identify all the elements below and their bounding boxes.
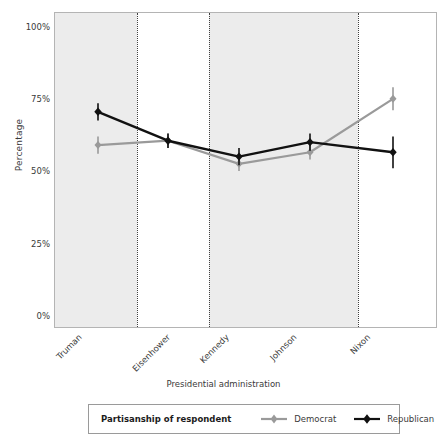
y-tick-label-100: 100% bbox=[6, 22, 50, 32]
plot-area bbox=[54, 12, 437, 328]
series-canvas bbox=[55, 13, 436, 327]
x-axis-title: Presidential administration bbox=[0, 379, 447, 389]
x-axis-tick-labels: Truman Eisenhower Kennedy Johnson Nixon bbox=[0, 328, 447, 380]
y-tick-label-75: 75% bbox=[6, 94, 50, 104]
democrat-marker-icon bbox=[261, 413, 287, 425]
legend-entry-democrat[interactable]: Democrat bbox=[261, 413, 336, 425]
legend-entry-republican[interactable]: Republican bbox=[354, 413, 434, 425]
legend-label-republican: Republican bbox=[387, 414, 434, 424]
x-tick-label-kennedy: Kennedy bbox=[198, 332, 231, 365]
chart-legend: Partisanship of respondent Democrat Repu… bbox=[88, 404, 400, 434]
x-tick-label-johnson: Johnson bbox=[268, 332, 299, 363]
y-tick-label-25: 25% bbox=[6, 239, 50, 249]
republican-marker-icon bbox=[354, 413, 380, 425]
series-republican bbox=[94, 103, 396, 168]
y-tick-label-50: 50% bbox=[6, 166, 50, 176]
y-tick-label-0: 0% bbox=[6, 311, 50, 321]
x-tick-label-truman: Truman bbox=[54, 332, 83, 361]
legend-label-democrat: Democrat bbox=[294, 414, 336, 424]
x-tick-label-nixon: Nixon bbox=[348, 332, 372, 356]
chart-figure: Percentage 100% 75% 50% 25% 0% Truman Ei… bbox=[0, 0, 447, 446]
x-tick-label-eisenhower: Eisenhower bbox=[130, 332, 172, 374]
legend-title: Partisanship of respondent bbox=[101, 414, 231, 424]
